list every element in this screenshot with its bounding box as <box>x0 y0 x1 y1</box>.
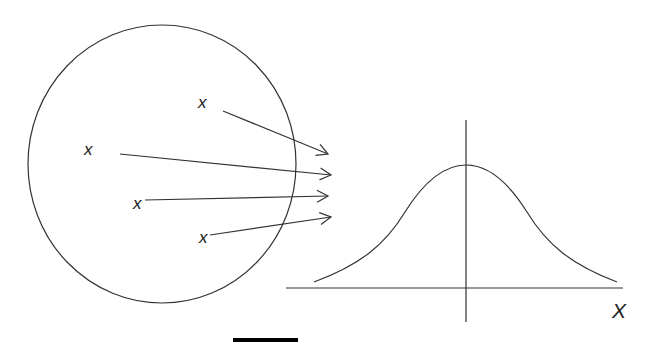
arrow-1 <box>223 111 328 154</box>
sampling-distribution-diagram: x x x x X <box>0 0 647 342</box>
sample-label-3: x <box>132 194 142 213</box>
axis-label-x: X <box>611 299 627 322</box>
arrow-3 <box>145 196 328 200</box>
arrow-2 <box>120 154 331 175</box>
population-circle <box>28 25 296 303</box>
sample-label-1: x <box>197 93 207 112</box>
arrow-4 <box>210 217 331 235</box>
black-bar <box>233 338 298 342</box>
sample-label-4: x <box>198 228 208 247</box>
sample-label-2: x <box>83 140 93 159</box>
